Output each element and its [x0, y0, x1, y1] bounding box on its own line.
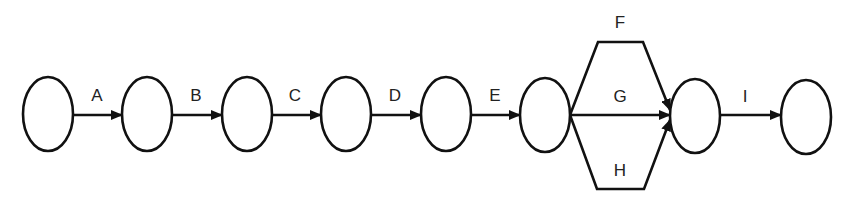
edge-label-c: C — [289, 86, 301, 105]
node-4 — [321, 77, 371, 151]
node-3 — [222, 77, 272, 151]
edge-label-e: E — [489, 86, 500, 105]
node-2 — [122, 77, 172, 151]
edge-label-i: I — [743, 87, 748, 106]
edge-label-f: F — [615, 13, 625, 32]
nodes — [23, 77, 831, 154]
edge-label-b: B — [190, 86, 201, 105]
edge-label-d: D — [389, 86, 401, 105]
edge-label-a: A — [91, 86, 103, 105]
network-diagram: A B C D E F G H I — [0, 0, 846, 207]
edge-label-g: G — [613, 87, 626, 106]
node-8 — [781, 80, 831, 154]
edge-label-h: H — [614, 161, 626, 180]
node-5 — [421, 77, 471, 151]
node-6 — [520, 78, 570, 152]
node-1 — [23, 77, 73, 151]
edge-labels: A B C D E F G H I — [91, 13, 747, 180]
node-7 — [670, 79, 720, 153]
